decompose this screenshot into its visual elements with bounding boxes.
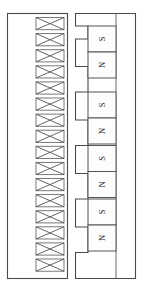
stator-slot — [36, 66, 64, 78]
magnet-pole-label: N — [97, 128, 107, 134]
stator-slot — [36, 243, 64, 255]
magnet-pair: S N — [88, 199, 116, 251]
magnet-pair: S N — [88, 92, 116, 144]
magnet-pole-label: S — [97, 209, 107, 214]
magnet-pole-label: N — [97, 62, 107, 68]
diagram-canvas: S N S N S N S N — [0, 0, 143, 292]
magnet-pole-label: N — [97, 181, 107, 187]
magnet-pair: S N — [88, 146, 116, 198]
stator-slot — [36, 195, 64, 207]
machine-cross-section-diagram: S N S N S N S N — [0, 0, 143, 292]
stator-slot — [36, 211, 64, 223]
stator-slot — [36, 50, 64, 62]
stator-slot — [36, 162, 64, 174]
magnet-pole-label: S — [97, 102, 107, 107]
magnet-pole-label: N — [97, 235, 107, 241]
magnet-pole-label: S — [97, 156, 107, 161]
stator-slot — [36, 34, 64, 46]
mover-assembly: S N S N S N S N — [76, 14, 136, 279]
stator-slot — [36, 146, 64, 158]
stator-slot — [36, 18, 64, 30]
stator-slot — [36, 82, 64, 94]
stator-slot — [36, 179, 64, 191]
stator-slot — [36, 130, 64, 142]
magnet-pole-label: S — [97, 36, 107, 41]
stator-slot — [36, 227, 64, 239]
magnet-pair: S N — [88, 26, 116, 78]
stator-assembly — [8, 14, 68, 279]
stator-slot — [36, 98, 64, 110]
stator-slot — [36, 114, 64, 126]
stator-slot — [36, 259, 64, 271]
